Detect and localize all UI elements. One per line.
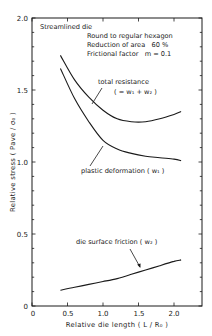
axis-ticks	[32, 18, 202, 306]
arrow-head-icon	[137, 263, 140, 268]
x-tick-label: 0.5	[62, 310, 73, 318]
y-tick-label: 0	[24, 303, 28, 311]
y-tick-label: 1.5	[17, 87, 28, 95]
x-tick-label: 0	[31, 310, 35, 318]
condition-reduction: Reduction of area 60 %	[87, 41, 168, 49]
die-surface-friction-label: die surface friction ( w₂ )	[76, 238, 157, 246]
plastic-deformation-label: plastic deformation ( w₁ )	[81, 167, 164, 175]
chart: 2.0 1.5 1.0 0.5 0 0 0.5 1.0 1.5 2.0 Rela…	[0, 0, 212, 336]
x-tick-label: 1.0	[97, 310, 108, 318]
condition-die-type: Streamlined die	[40, 23, 92, 31]
condition-shape: Round to regular hexagon	[87, 32, 173, 40]
total-resistance-label: total resistance	[98, 78, 149, 86]
x-tick-label: 1.5	[133, 310, 144, 318]
die-surface-friction-curve	[60, 260, 181, 290]
total-resistance-formula: ( = w₁ + w₂ )	[114, 88, 157, 96]
y-tick-label: 1.0	[17, 159, 28, 167]
y-tick-label: 0.5	[17, 231, 28, 239]
condition-friction-factor: Frictional factor m = 0.1	[87, 50, 171, 58]
plastic-deformation-leader	[90, 146, 103, 166]
y-tick-label: 2.0	[17, 15, 28, 23]
total-resistance-leader	[92, 88, 102, 104]
x-axis-title: Relative die length ( L / R₀ )	[66, 321, 168, 329]
x-tick-label: 2.0	[168, 310, 179, 318]
y-axis-title: Relative stress ( Pave / σ₀ )	[9, 112, 17, 212]
plot-frame	[32, 18, 202, 306]
